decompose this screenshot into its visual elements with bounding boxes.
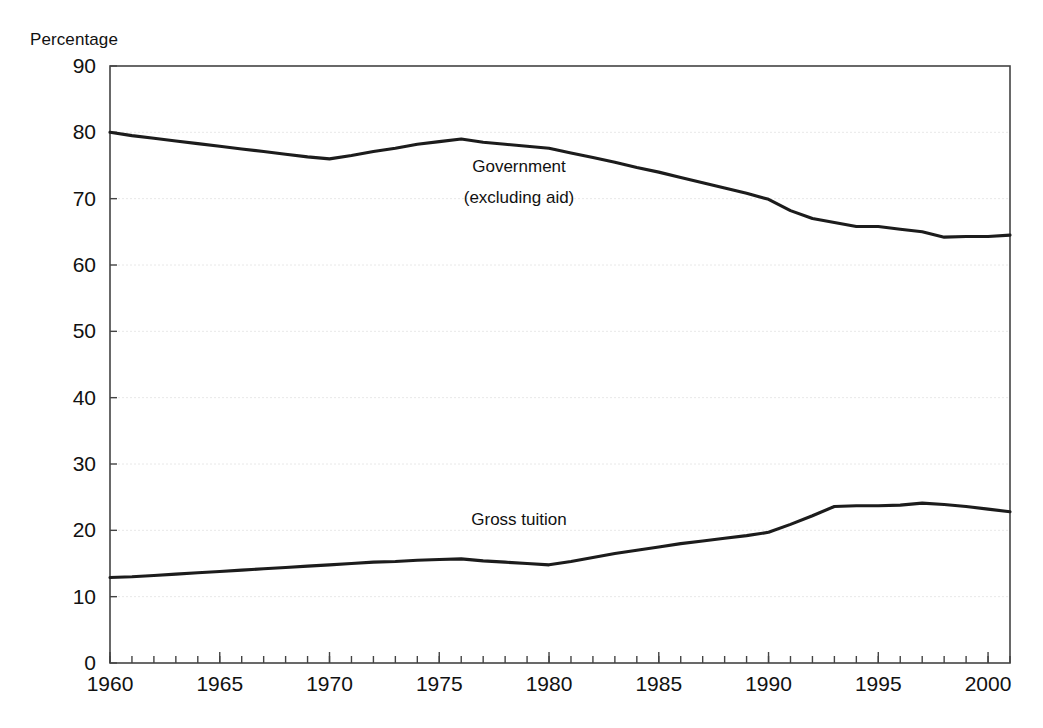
y-tick-label: 50 bbox=[73, 319, 96, 342]
y-tick-label: 80 bbox=[73, 120, 96, 143]
government-annotation-line1: Government bbox=[472, 157, 566, 176]
y-tick-label: 10 bbox=[73, 585, 96, 608]
x-ticks-group: 196019651970197519801985199019952000 bbox=[87, 652, 1012, 695]
x-tick-label: 1980 bbox=[526, 672, 573, 695]
x-tick-label: 1975 bbox=[416, 672, 463, 695]
x-tick-label: 1990 bbox=[745, 672, 792, 695]
y-tick-label: 60 bbox=[73, 253, 96, 276]
y-tick-label: 20 bbox=[73, 518, 96, 541]
x-minor-ticks-group bbox=[110, 656, 1010, 663]
y-tick-label: 0 bbox=[84, 651, 96, 674]
y-tick-label: 70 bbox=[73, 187, 96, 210]
y-axis-unit-label: Percentage bbox=[30, 30, 118, 50]
x-tick-label: 1995 bbox=[855, 672, 902, 695]
x-tick-label: 1965 bbox=[196, 672, 243, 695]
government-annotation-line2: (excluding aid) bbox=[464, 188, 575, 207]
data-line bbox=[110, 132, 1010, 237]
plot-frame bbox=[110, 66, 1010, 663]
line-chart: 0102030405060708090 19601965197019751980… bbox=[0, 0, 1043, 728]
x-tick-label: 1960 bbox=[87, 672, 134, 695]
x-tick-label: 2000 bbox=[965, 672, 1012, 695]
x-tick-label: 1970 bbox=[306, 672, 353, 695]
y-tick-label: 40 bbox=[73, 386, 96, 409]
x-tick-label: 1985 bbox=[635, 672, 682, 695]
chart-figure: Percentage 0102030405060708090 196019651… bbox=[0, 0, 1043, 728]
tuition-annotation: Gross tuition bbox=[471, 510, 566, 529]
y-tick-label: 90 bbox=[73, 54, 96, 77]
y-tick-label: 30 bbox=[73, 452, 96, 475]
